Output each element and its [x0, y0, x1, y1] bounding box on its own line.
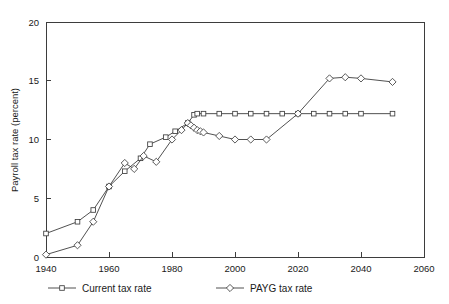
data-point-1-22 — [342, 74, 349, 81]
x-tick-label-2020: 2020 — [287, 263, 308, 274]
data-point-0-7 — [163, 135, 168, 140]
series-current-tax-rate — [44, 111, 395, 235]
data-point-0-8 — [173, 129, 178, 134]
x-tick-label-1980: 1980 — [161, 263, 182, 274]
data-point-0-2 — [91, 208, 96, 213]
data-point-1-17 — [231, 136, 238, 143]
data-point-0-17 — [280, 111, 285, 116]
y-tick-label-0: 0 — [34, 252, 39, 263]
data-point-0-6 — [148, 142, 153, 147]
y-tick-label-15: 15 — [28, 75, 39, 86]
data-point-0-19 — [311, 111, 316, 116]
data-point-1-24 — [389, 78, 396, 85]
data-point-0-16 — [264, 111, 269, 116]
x-tick-label-1960: 1960 — [98, 263, 119, 274]
x-tick-label-2060: 2060 — [413, 263, 434, 274]
x-tick-label-1940: 1940 — [35, 263, 56, 274]
data-point-1-5 — [131, 165, 138, 172]
chart-figure: 05101520 1940196019802000202020402060 Pa… — [0, 0, 449, 304]
data-series — [42, 74, 396, 259]
data-point-0-0 — [44, 231, 49, 236]
data-point-1-4 — [121, 159, 128, 166]
x-tick-label-2000: 2000 — [224, 263, 245, 274]
data-point-0-12 — [201, 111, 206, 116]
data-point-0-22 — [359, 111, 364, 116]
data-point-1-2 — [90, 218, 97, 225]
data-point-0-11 — [195, 111, 200, 116]
series-payg-tax-rate — [42, 74, 396, 259]
legend-marker-diamond — [226, 284, 233, 291]
y-axis-ticks: 05101520 — [28, 17, 51, 263]
data-point-1-18 — [247, 136, 254, 143]
x-axis-ticks: 1940196019802000202020402060 — [35, 252, 434, 274]
data-point-0-23 — [390, 111, 395, 116]
x-tick-label-2040: 2040 — [350, 263, 371, 274]
data-point-0-15 — [248, 111, 253, 116]
data-point-0-4 — [122, 169, 127, 174]
data-point-1-23 — [357, 75, 364, 82]
payroll-tax-rate-line-chart: 05101520 1940196019802000202020402060 Pa… — [0, 0, 449, 304]
data-point-1-7 — [153, 158, 160, 165]
data-point-0-21 — [343, 111, 348, 116]
legend-label-1: PAYG tax rate — [250, 283, 313, 294]
y-axis-title: Payroll tax rate (percent) — [9, 88, 20, 192]
data-point-1-1 — [74, 242, 81, 249]
data-point-1-16 — [216, 132, 223, 139]
data-point-0-1 — [75, 219, 80, 224]
y-tick-label-5: 5 — [34, 193, 39, 204]
data-point-0-14 — [233, 111, 238, 116]
series-line-1 — [46, 77, 393, 254]
data-point-0-20 — [327, 111, 332, 116]
legend-marker-square — [60, 286, 65, 291]
y-tick-label-10: 10 — [28, 134, 39, 145]
y-tick-label-20: 20 — [28, 17, 39, 28]
chart-legend: Current tax ratePAYG tax rate — [48, 283, 313, 294]
legend-label-0: Current tax rate — [82, 283, 152, 294]
series-line-0 — [46, 114, 393, 234]
data-point-0-13 — [217, 111, 222, 116]
